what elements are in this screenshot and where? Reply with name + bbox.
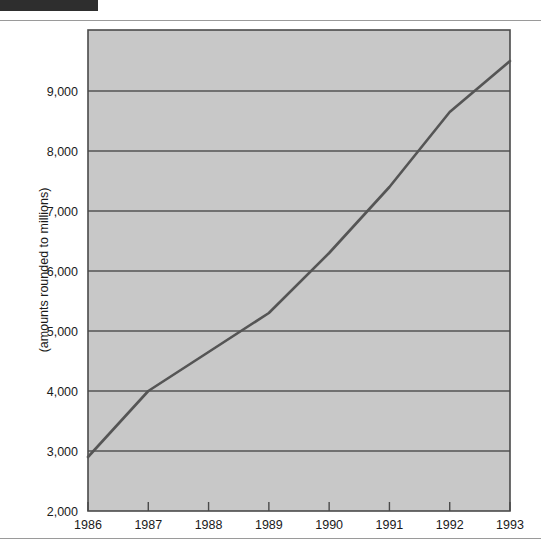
x-tick-label-1993: 1993: [496, 518, 524, 532]
y-tick-label-6000: 6,000: [47, 265, 78, 279]
x-tick-label-1991: 1991: [376, 518, 404, 532]
page-root: 2,0003,0004,0005,0006,0007,0008,0009,000…: [0, 0, 541, 554]
y-axis-label: (amounts rounded to millions): [37, 188, 51, 353]
x-tick-label-1990: 1990: [315, 518, 343, 532]
y-tick-label-5000: 5,000: [47, 325, 78, 339]
y-tick-label-7000: 7,000: [47, 205, 78, 219]
line-chart: 2,0003,0004,0005,0006,0007,0008,0009,000…: [0, 0, 541, 554]
y-axis-tick-labels-group: 2,0003,0004,0005,0006,0007,0008,0009,000: [47, 85, 78, 519]
footer-divider-rule: [0, 538, 541, 539]
y-tick-label-9000: 9,000: [47, 85, 78, 99]
x-axis-tick-labels-group: 19861987198819891990199119921993: [74, 518, 524, 532]
y-tick-label-3000: 3,000: [47, 445, 78, 459]
y-tick-label-2000: 2,000: [47, 505, 78, 519]
x-tick-label-1988: 1988: [195, 518, 223, 532]
x-tick-label-1986: 1986: [74, 518, 102, 532]
y-tick-label-8000: 8,000: [47, 145, 78, 159]
y-tick-label-4000: 4,000: [47, 385, 78, 399]
x-tick-label-1992: 1992: [436, 518, 464, 532]
x-tick-label-1989: 1989: [255, 518, 283, 532]
chart-svg: 2,0003,0004,0005,0006,0007,0008,0009,000…: [0, 0, 541, 554]
x-tick-label-1987: 1987: [134, 518, 162, 532]
